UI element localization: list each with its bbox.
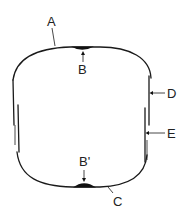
- arrowhead-b-icon: [81, 51, 85, 55]
- label-d: D: [167, 86, 176, 101]
- label-b-prime: B': [79, 154, 90, 169]
- leader-a: [52, 28, 55, 46]
- label-a: A: [47, 14, 56, 29]
- arrowhead-d-icon: [150, 91, 154, 95]
- deposit-b: [71, 47, 94, 50]
- label-e: E: [167, 126, 176, 141]
- deposit-b-prime: [73, 183, 96, 187]
- left-inner-wall: [18, 105, 19, 152]
- leader-c: [108, 187, 113, 193]
- left-outer-wall: [13, 80, 14, 125]
- label-c: C: [113, 194, 122, 209]
- container-cross-section-diagram: A B B' C D E: [0, 0, 185, 215]
- arrowhead-b-prime-icon: [82, 178, 86, 182]
- label-b: B: [78, 62, 87, 77]
- arrowhead-e-icon: [146, 131, 150, 135]
